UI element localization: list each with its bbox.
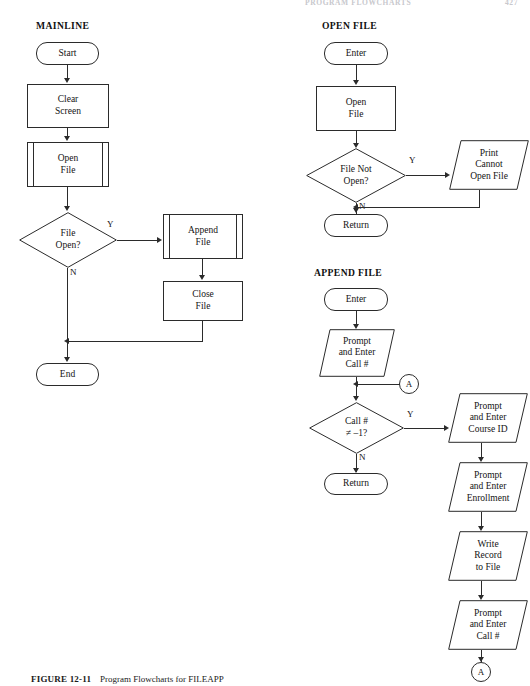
figure-caption-label: FIGURE 12-11 [31,674,91,684]
openfile-print-error-io: Print Cannot Open File [449,140,529,190]
mainline-arrow-to-end [64,357,70,362]
figure-page: PROGRAM FLOWCHARTS 427 MAINLINE Start Cl… [0,0,530,686]
appendfile-connector-a-out-label: A [478,667,485,677]
mainline-clear-screen-process: Clear Screen [27,84,109,128]
appendfile-enter-terminator: Enter [324,288,388,311]
openfile-open-file-line2: File [349,109,364,121]
appendfile-write-record-text: Write Record to File [474,539,501,574]
appendfile-decision-line1: Call # [345,416,368,428]
appendfile-prompt-call-io: Prompt and Enter Call # [319,329,395,377]
openfile-enter-label: Enter [346,48,367,60]
page-number: 427 [505,0,518,7]
section-title-openfile: OPEN FILE [322,20,377,31]
appendfile-connector-a-in-label: A [406,379,413,389]
openfile-print-error-line3: Open File [470,171,508,183]
mainline-branch-label-no: N [70,267,77,277]
appendfile-call-decision: Call # ≠ –1? [309,402,404,454]
appendfile-prompt-enroll-io: Prompt and Enter Enrollment [448,462,528,512]
appendfile-prompt-call-line3: Call # [339,359,376,371]
appendfile-return-terminator: Return [324,473,388,495]
mainline-close-file-line2: File [196,301,211,313]
openfile-open-file-line1: Open [346,97,367,109]
mainline-line-decision-to-end [67,268,68,359]
mainline-arrow-start-to-clear [64,78,70,83]
appendfile-enter-label: Enter [346,294,367,306]
appendfile-prompt-call-line1: Prompt [339,336,376,348]
appendfile-prompt-call2-text: Prompt and Enter Call # [470,608,507,643]
mainline-end-label: End [60,369,75,381]
figure-caption: FIGURE 12-11 Program Flowcharts for FILE… [31,674,224,684]
appendfile-prompt-enroll-line1: Prompt [467,470,510,482]
mainline-append-file-line2: File [196,237,211,249]
appendfile-write-record-line3: to File [474,562,501,574]
mainline-open-file-line1: Open [58,153,79,165]
appendfile-decision-line2: ≠ –1? [345,428,368,440]
openfile-decision-text: File Not Open? [340,164,371,187]
openfile-return-terminator: Return [324,214,388,237]
appendfile-return-label: Return [343,478,369,490]
appendfile-branch-label-yes: Y [407,409,414,419]
openfile-file-not-open-decision: File Not Open? [306,148,406,203]
appendfile-prompt-enroll-line3: Enrollment [467,493,510,505]
mainline-start-label: Start [59,48,77,60]
openfile-arrow-enter-to-open [353,80,359,85]
mainline-arrow-clear-to-open [64,136,70,141]
openfile-enter-terminator: Enter [324,42,388,65]
openfile-line-merge-to-main [356,207,480,208]
openfile-line-print-down [479,190,480,207]
openfile-print-error-line2: Cannot [470,159,508,171]
figure-caption-text: Program Flowcharts for FILEAPP [100,674,224,684]
openfile-branch-label-yes: Y [409,155,416,165]
mainline-open-file-predefined-process: Open File [27,142,109,187]
appendfile-prompt-call2-line2: and Enter [470,619,507,631]
appendfile-write-record-io: Write Record to File [448,531,528,581]
mainline-decision-line1: File [56,228,81,240]
appendfile-prompt-course-line2: and Enter [468,412,507,424]
mainline-line-merge-to-main [67,341,203,342]
mainline-file-open-decision-text: File Open? [56,228,81,251]
openfile-line-decision-to-print [406,175,446,176]
mainline-arrow-decision-to-append [157,237,162,243]
appendfile-prompt-course-line3: Course ID [468,424,507,436]
appendfile-connector-a-out: A [471,662,491,682]
appendfile-prompt-enroll-line2: and Enter [467,481,510,493]
mainline-close-file-line1: Close [192,289,214,301]
appendfile-prompt-call2-io: Prompt and Enter Call # [448,600,528,650]
openfile-open-file-process: Open File [316,86,396,131]
appendfile-arrow-prompt-to-decision [353,396,359,401]
appendfile-write-record-line1: Write [474,539,501,551]
appendfile-connector-a-in: A [399,374,419,394]
appendfile-prompt-call2-line3: Call # [470,631,507,643]
appendfile-line-decision-to-course [404,428,445,429]
running-head: PROGRAM FLOWCHARTS [305,0,411,7]
mainline-clear-screen-line2: Screen [55,106,81,118]
mainline-arrow-append-to-close [199,275,205,280]
appendfile-prompt-enroll-text: Prompt and Enter Enrollment [467,470,510,505]
openfile-return-label: Return [343,220,369,232]
mainline-append-file-line1: Append [188,225,218,237]
openfile-print-error-text: Print Cannot Open File [470,148,508,183]
appendfile-prompt-course-io: Prompt and Enter Course ID [448,393,528,443]
mainline-decision-line2: Open? [56,240,81,252]
mainline-line-decision-to-append [117,240,158,241]
openfile-decision-line2: Open? [340,176,371,188]
section-title-appendfile: APPEND FILE [314,267,382,278]
appendfile-line-connector-to-main [356,384,400,385]
appendfile-prompt-call-line2: and Enter [339,347,376,359]
appendfile-line-enter-to-prompt [356,311,357,325]
appendfile-prompt-course-text: Prompt and Enter Course ID [468,401,507,436]
openfile-line-enter-to-open [356,65,357,81]
mainline-close-file-process: Close File [163,281,243,321]
mainline-line-close-down [202,321,203,341]
mainline-start-terminator: Start [36,42,99,65]
appendfile-decision-text: Call # ≠ –1? [345,416,368,439]
openfile-branch-label-no: N [359,201,366,211]
mainline-append-file-predefined-process: Append File [163,214,243,259]
mainline-end-terminator: End [36,363,99,386]
appendfile-prompt-call-text: Prompt and Enter Call # [339,336,376,371]
appendfile-prompt-course-line1: Prompt [468,401,507,413]
section-title-mainline: MAINLINE [36,20,89,31]
openfile-print-error-line1: Print [470,148,508,160]
mainline-branch-label-yes: Y [107,219,114,229]
mainline-line-start-to-clear [67,65,68,79]
